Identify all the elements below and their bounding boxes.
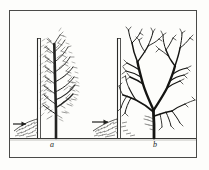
- tree-a-dense: [40, 28, 79, 138]
- panel-label-a: a: [50, 141, 54, 149]
- shelter-wall-a: [38, 38, 41, 138]
- figure-illustration: a b: [0, 0, 209, 170]
- figure-canvas: [0, 0, 209, 170]
- debris-mound-a: [14, 119, 38, 137]
- debris-mound-b: [93, 119, 135, 137]
- tree-b-open: [118, 27, 195, 138]
- panel-label-b: b: [153, 141, 157, 149]
- wind-arrow-a: [13, 121, 26, 126]
